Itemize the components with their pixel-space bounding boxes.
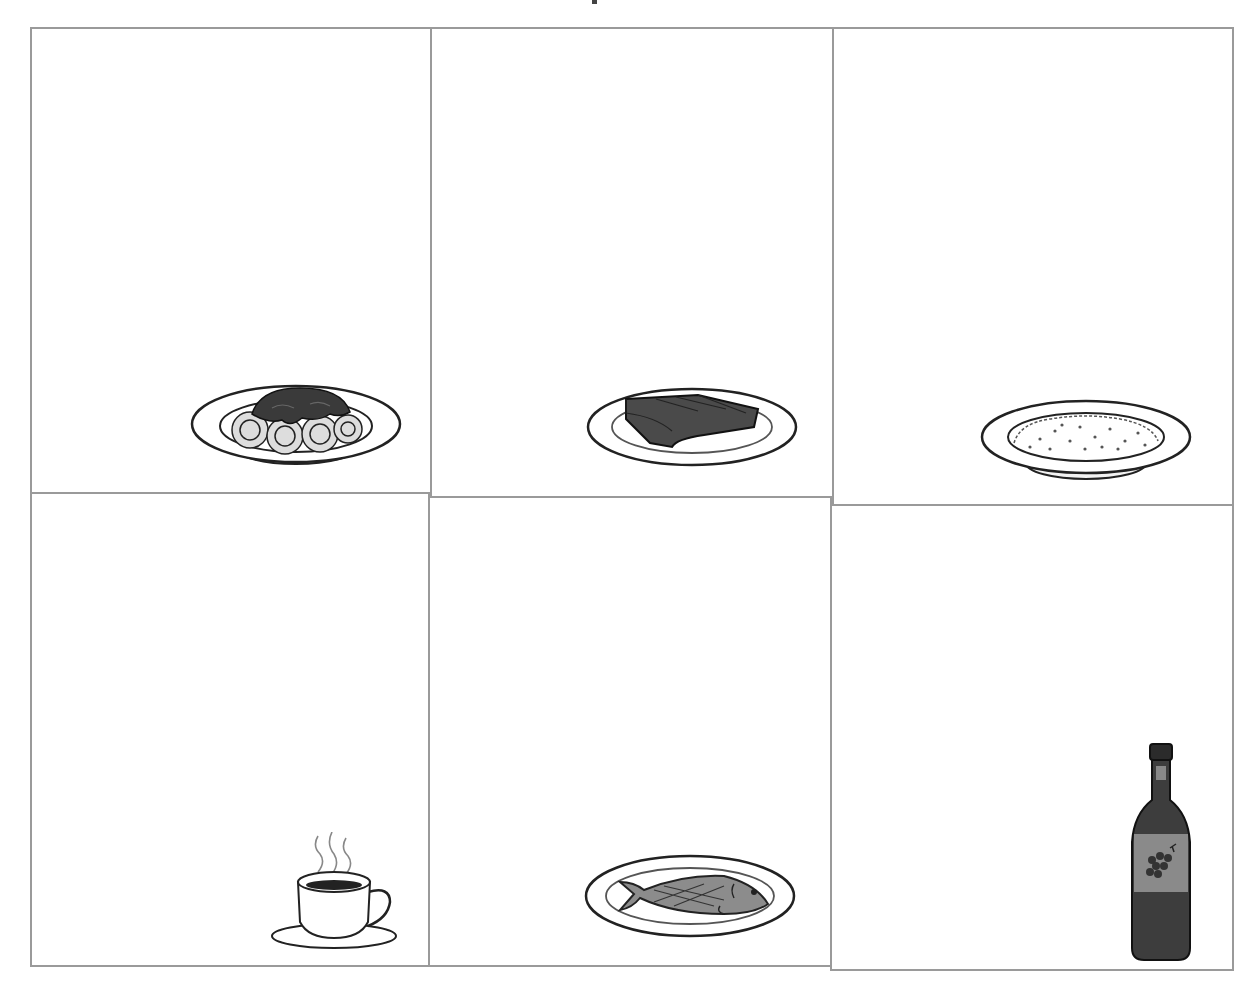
fish-plate-icon <box>584 850 796 942</box>
grid-cell-fish[interactable] <box>428 496 832 967</box>
spaghetti-bowl-icon <box>190 374 402 474</box>
rice-bowl-icon <box>980 391 1192 487</box>
grid-cell-coffee[interactable] <box>30 492 430 967</box>
grid-cell-wine[interactable] <box>830 504 1234 971</box>
coffee-cup-icon <box>268 832 402 950</box>
steak-plate-icon <box>586 383 798 469</box>
cropped-text-fragment <box>592 0 597 4</box>
grid-cell-spaghetti[interactable] <box>30 27 432 494</box>
picture-grid <box>30 27 1234 967</box>
grid-cell-steak[interactable] <box>430 27 834 498</box>
wine-bottle-icon <box>1128 742 1194 964</box>
grid-cell-rice[interactable] <box>832 27 1234 506</box>
